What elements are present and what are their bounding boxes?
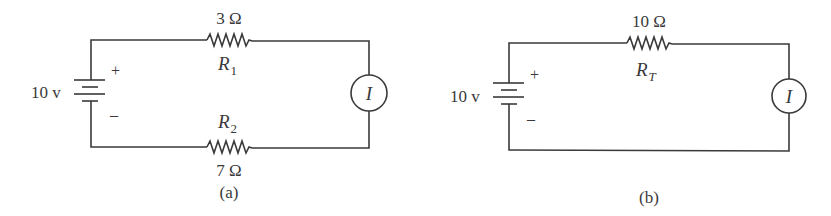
wire-b-top-right [672, 44, 789, 79]
resistor-r2-icon [207, 141, 252, 153]
r1-value-label: 3 Ω [216, 9, 241, 28]
wire-a-bottom-left [91, 101, 207, 147]
wire-a-top-right [252, 41, 369, 75]
r1-name-label: R1 [217, 53, 237, 78]
ammeter-a-label: I [365, 83, 374, 104]
caption-a: (a) [220, 183, 239, 202]
minus-b-label: – [526, 110, 536, 127]
circuit-diagrams: I 10 v + – 3 Ω R1 R2 7 Ω (a) I [0, 0, 831, 216]
rt-value-label: 10 Ω [632, 12, 666, 31]
rt-name: R [635, 59, 648, 80]
rt-name-label: RT [635, 59, 657, 84]
wire-a-right-lower [252, 111, 369, 148]
r2-sub: 2 [231, 121, 238, 136]
r1-name: R [217, 53, 230, 74]
rt-sub: T [649, 69, 657, 84]
resistor-r1-icon [207, 34, 252, 46]
r2-name: R [217, 111, 230, 132]
ammeter-b-label: I [785, 86, 794, 107]
r1-sub: 1 [231, 63, 238, 78]
battery-a-icon [74, 80, 105, 101]
minus-a-label: – [109, 106, 119, 123]
wire-b-top-left [509, 43, 627, 83]
circuit-a: I 10 v + – 3 Ω R1 R2 7 Ω (a) [31, 9, 387, 202]
caption-b: (b) [639, 188, 659, 207]
voltage-a-label: 10 v [31, 83, 61, 102]
plus-a-label: + [111, 62, 120, 79]
plus-b-label: + [530, 66, 539, 83]
voltage-b-label: 10 v [450, 87, 480, 106]
circuit-b: I 10 v + – 10 Ω RT (b) [450, 12, 806, 207]
r2-name-label: R2 [217, 111, 237, 136]
r2-value-label: 7 Ω [216, 161, 241, 180]
wire-a-top-left [91, 40, 207, 80]
battery-b-icon [493, 83, 524, 104]
wire-b-right-lower [509, 104, 789, 151]
resistor-rt-icon [627, 37, 672, 49]
